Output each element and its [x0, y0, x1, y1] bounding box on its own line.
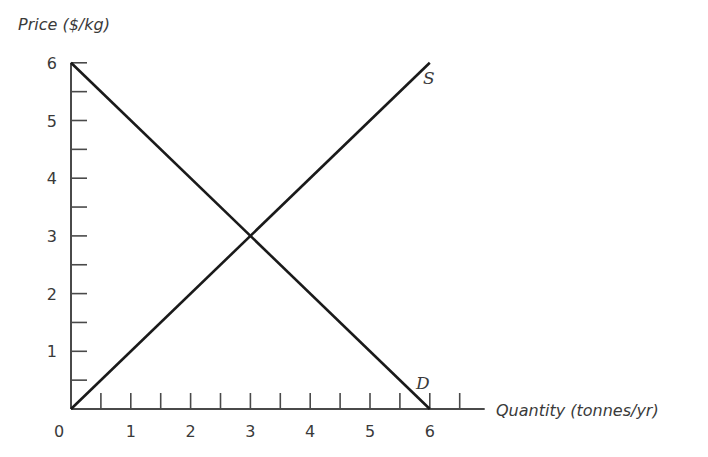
axes	[71, 63, 485, 409]
series-lines	[71, 63, 430, 409]
x-axis-title: Quantity (tonnes/yr)	[496, 401, 659, 420]
x-tick-label: 3	[245, 422, 255, 441]
y-tick-label: 5	[47, 112, 57, 131]
y-tick-label: 4	[47, 169, 57, 188]
y-axis-title: Price ($/kg)	[18, 15, 110, 34]
ticks	[71, 63, 460, 409]
x-tick-label: 6	[425, 422, 435, 441]
supply-demand-chart: 123456123456 Price ($/kg) Quantity (tonn…	[0, 0, 708, 457]
x-tick-label: 4	[305, 422, 315, 441]
tick-labels: 123456123456	[47, 54, 435, 441]
supply-curve-label: S	[423, 68, 435, 88]
x-tick-label: 1	[126, 422, 136, 441]
x-tick-label: 5	[365, 422, 375, 441]
origin-label: 0	[54, 422, 64, 441]
x-tick-label: 2	[186, 422, 196, 441]
demand-curve-label: D	[415, 373, 430, 393]
y-tick-label: 2	[47, 285, 57, 304]
y-tick-label: 6	[47, 54, 57, 73]
y-tick-label: 3	[47, 227, 57, 246]
y-tick-label: 1	[47, 342, 57, 361]
